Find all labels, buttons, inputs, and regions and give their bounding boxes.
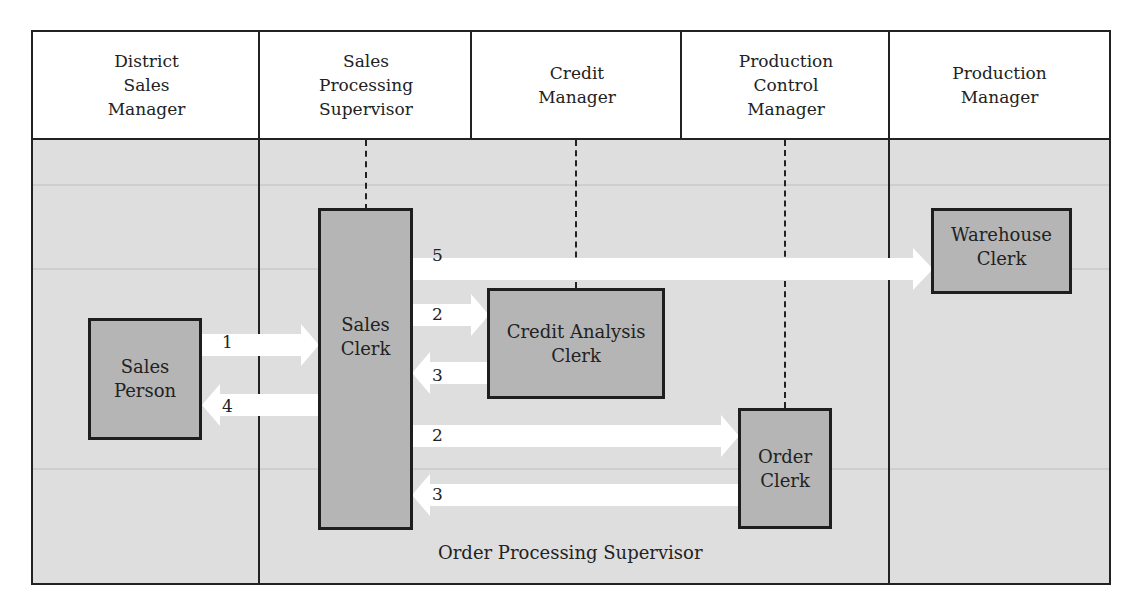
step-number: 1 — [222, 332, 233, 352]
flow-arrow-5-right — [412, 258, 933, 280]
flow-arrow-2-right-order — [412, 425, 739, 447]
box-order-clerk: Order Clerk — [738, 408, 832, 529]
header-production-control-manager: Production Control Manager — [682, 32, 890, 138]
reporting-line-dashed — [365, 140, 367, 210]
header-credit-manager: Credit Manager — [472, 32, 682, 138]
step-number: 4 — [222, 396, 233, 416]
box-sales-clerk: Sales Clerk — [318, 208, 413, 530]
box-credit-analysis-clerk: Credit Analysis Clerk — [487, 288, 665, 399]
step-number: 3 — [432, 365, 443, 385]
header-production-manager: Production Manager — [890, 32, 1109, 138]
background-stripe — [33, 184, 1109, 186]
region-label-order-processing-supervisor: Order Processing Supervisor — [438, 542, 703, 563]
flow-arrow-3-left-order — [412, 484, 739, 506]
header-district-sales-manager: District Sales Manager — [33, 32, 260, 138]
box-warehouse-clerk: Warehouse Clerk — [931, 208, 1072, 294]
box-sales-person: Sales Person — [88, 318, 202, 440]
diagram-frame: District Sales Manager Sales Processing … — [31, 30, 1111, 585]
flow-arrow-4-left — [202, 394, 319, 416]
header-sales-processing-supervisor: Sales Processing Supervisor — [260, 32, 472, 138]
flow-arrow-3-left-credit — [412, 362, 489, 384]
flow-arrow-2-right-credit — [412, 304, 489, 326]
background-stripe — [33, 468, 1109, 470]
lane-divider — [888, 138, 890, 585]
step-number: 2 — [432, 425, 443, 445]
step-number: 2 — [432, 304, 443, 324]
column-header-row: District Sales Manager Sales Processing … — [33, 32, 1109, 140]
flow-arrow-1-right — [202, 334, 319, 356]
step-number: 5 — [432, 245, 443, 265]
step-number: 3 — [432, 484, 443, 504]
